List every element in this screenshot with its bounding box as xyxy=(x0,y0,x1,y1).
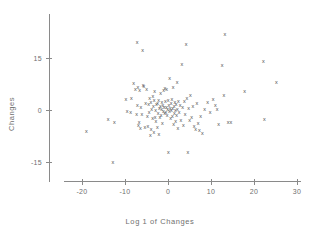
data-point: x xyxy=(124,96,127,102)
data-point: x xyxy=(107,116,110,122)
scatter-plot-figure: -20-100102030150-15 xxxxxxxxxxxxxxxxxxxx… xyxy=(0,0,314,232)
data-point: x xyxy=(190,114,193,120)
data-point: x xyxy=(185,41,188,47)
x-tick-label: 10 xyxy=(207,188,215,195)
data-point: x xyxy=(113,119,116,125)
data-point: x xyxy=(153,88,156,94)
data-point: x xyxy=(263,116,266,122)
data-point: x xyxy=(141,47,144,53)
data-point: x xyxy=(184,111,187,117)
data-point: x xyxy=(112,159,115,165)
data-point: x xyxy=(168,75,171,81)
data-point: x xyxy=(161,120,164,126)
data-point: x xyxy=(217,121,220,127)
data-point: x xyxy=(262,58,265,64)
data-point: x xyxy=(145,86,148,92)
data-point: x xyxy=(177,125,180,131)
data-point: x xyxy=(172,84,175,90)
data-point: x xyxy=(181,104,184,110)
data-point: x xyxy=(130,95,133,101)
data-point: x xyxy=(182,122,185,128)
data-point: x xyxy=(178,109,181,115)
data-point: x xyxy=(158,131,161,137)
data-point: x xyxy=(156,124,159,130)
data-point: x xyxy=(223,92,226,98)
y-tick-label: -15 xyxy=(31,159,42,166)
data-point: x xyxy=(223,31,226,37)
data-point: x xyxy=(85,128,88,134)
data-point: x xyxy=(203,106,206,112)
data-point: x xyxy=(139,125,142,131)
plot-canvas: -20-100102030150-15 xxxxxxxxxxxxxxxxxxxx… xyxy=(0,0,314,232)
data-point: x xyxy=(216,106,219,112)
data-point: x xyxy=(221,62,224,68)
x-tick-label: -20 xyxy=(76,188,87,195)
data-point: x xyxy=(155,118,158,124)
data-point: x xyxy=(140,111,143,117)
data-point: x xyxy=(138,119,141,125)
x-tick-label: 0 xyxy=(166,188,170,195)
data-point: x xyxy=(140,104,143,110)
data-point: x xyxy=(206,99,209,105)
data-point: x xyxy=(167,149,170,155)
data-point: x xyxy=(192,103,195,109)
data-point: x xyxy=(243,88,246,94)
x-tick-label: 30 xyxy=(293,188,301,195)
data-point: x xyxy=(197,120,200,126)
x-tick-label: 20 xyxy=(250,188,258,195)
data-point: x xyxy=(201,130,204,136)
data-point: x xyxy=(209,109,212,115)
data-point: x xyxy=(199,113,202,119)
data-point: x xyxy=(189,92,192,98)
data-point: x xyxy=(180,61,183,67)
data-point: x xyxy=(174,118,177,124)
x-tick-label: -10 xyxy=(119,188,130,195)
data-point: x xyxy=(194,126,197,132)
data-point: x xyxy=(136,39,139,45)
data-point: x xyxy=(187,105,190,111)
y-axis-title: Changes xyxy=(7,97,16,131)
data-point: x xyxy=(165,86,168,92)
y-tick-label: 15 xyxy=(34,55,42,62)
data-point: x xyxy=(275,79,278,85)
data-point: x xyxy=(229,119,232,125)
data-point: x xyxy=(129,109,132,115)
data-point: x xyxy=(135,111,138,117)
axes-group xyxy=(49,14,301,182)
data-point: x xyxy=(195,100,198,106)
x-axis-title: Log 1 of Changes xyxy=(126,217,195,226)
data-point: x xyxy=(186,149,189,155)
data-markers-group: xxxxxxxxxxxxxxxxxxxxxxxxxxxxxxxxxxxxxxxx… xyxy=(85,31,278,165)
y-tick-label: 0 xyxy=(38,107,42,114)
tick-labels-group: -20-100102030150-15 xyxy=(31,55,301,195)
data-point: x xyxy=(176,79,179,85)
